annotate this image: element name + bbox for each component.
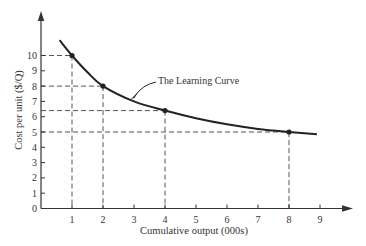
y-tick-label: 9	[32, 65, 37, 76]
x-tick-label: 4	[163, 214, 168, 225]
y-tick-label: 10	[27, 50, 37, 61]
x-tick-label: 3	[132, 214, 137, 225]
x-axis-arrow-icon	[342, 205, 353, 211]
data-point	[286, 129, 291, 134]
y-tick-label: 2	[32, 172, 37, 183]
x-tick-label: 7	[256, 214, 261, 225]
y-tick-label: 0	[32, 203, 37, 214]
x-tick-label: 5	[194, 214, 199, 225]
data-point	[162, 108, 167, 113]
learning-curve-chart: 012345678910123456789 The Learning Curve…	[0, 0, 366, 246]
x-axis-title: Cumulative output (000s)	[140, 225, 248, 237]
axes	[38, 11, 353, 212]
annotation-label: The Learning Curve	[158, 75, 240, 86]
learning-curve-line	[60, 40, 317, 134]
y-tick-label: 5	[32, 127, 37, 138]
y-tick-label: 6	[32, 111, 37, 122]
annotation-arrow-icon	[135, 82, 156, 96]
y-tick-label: 7	[32, 96, 37, 107]
x-tick-label: 6	[225, 214, 230, 225]
data-point	[69, 53, 74, 58]
x-tick-label: 9	[318, 214, 323, 225]
x-tick-label: 2	[101, 214, 106, 225]
y-tick-label: 3	[32, 157, 37, 168]
x-tick-label: 1	[70, 214, 75, 225]
y-axis-title: Cost per unit ($/Q)	[13, 70, 25, 150]
x-tick-label: 8	[287, 214, 292, 225]
y-tick-label: 8	[32, 81, 37, 92]
annotation: The Learning Curve	[131, 75, 240, 99]
data-point	[100, 84, 105, 89]
y-axis-arrow-icon	[38, 11, 44, 21]
y-tick-label: 1	[32, 188, 37, 199]
y-tick-label: 4	[32, 142, 37, 153]
